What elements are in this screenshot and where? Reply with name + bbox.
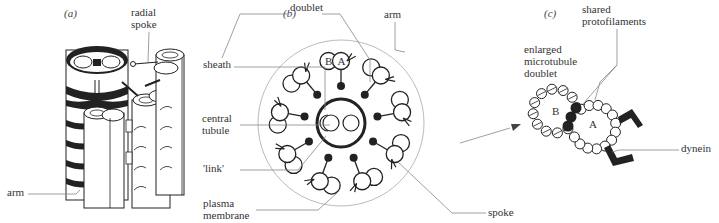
arm-label-b: arm [384, 8, 402, 20]
doublet-a-letter: A [338, 55, 346, 67]
central-tubule-right [343, 115, 359, 131]
spoke-head [305, 138, 313, 146]
panel-b-cross-section: (b) BA doublet arm sheath central tubule… [202, 1, 521, 221]
spoke-head [361, 91, 369, 99]
svg-text:protofilaments: protofilaments [582, 15, 646, 27]
axoneme-diagram: (a) [0, 0, 719, 223]
tubule-a [386, 146, 403, 163]
protofilament-ring [528, 84, 621, 154]
radial-spoke [134, 62, 158, 64]
spoke-head [350, 154, 358, 162]
spoke-head [373, 113, 381, 121]
outer-doublet [373, 91, 411, 126]
sheath-label: sheath [203, 58, 232, 70]
enlarged-doublet-label: enlarged [524, 43, 562, 55]
panel-a-3d-axoneme: (a) [7, 6, 184, 208]
spoke-head [301, 113, 309, 121]
doublet-tube-back [154, 49, 184, 195]
radial-spoke-label: radial [131, 6, 156, 18]
tubule-a [372, 67, 389, 84]
spoke-head [337, 82, 345, 90]
tubule-a-label: A [589, 118, 597, 130]
enlarge-arrow [460, 128, 510, 143]
shared-protofilaments-label: shared [582, 3, 611, 15]
tubule-a [394, 104, 411, 121]
shared-protofilament [563, 121, 574, 132]
svg-text:spoke: spoke [131, 18, 157, 30]
dynein-arm-inner [604, 145, 634, 166]
outer-doublet [283, 62, 321, 98]
doublet-b-letter: B [325, 55, 332, 67]
arm-label-a: arm [7, 186, 25, 198]
doublet-label: doublet [290, 1, 323, 13]
tubule-a [279, 146, 296, 163]
svg-text:tubule: tubule [202, 124, 230, 136]
panel-c-label: (c) [544, 7, 557, 20]
protofilament-a [569, 132, 579, 142]
outer-doublet [275, 138, 313, 174]
outer-doublet [304, 154, 340, 194]
plasma-membrane-label: plasma [203, 197, 234, 209]
tubule-a [311, 173, 328, 190]
panel-c-enlarged-doublet: (c) shared protofilaments enlarged micro… [524, 3, 711, 166]
spoke-head [369, 138, 377, 146]
link-label: 'link' [203, 162, 224, 174]
svg-text:membrane: membrane [203, 209, 250, 221]
svg-text:microtubule: microtubule [524, 55, 577, 67]
spoke-label: spoke [488, 206, 514, 218]
outer-doublet [361, 59, 395, 99]
central-tubule-label: central [202, 112, 232, 124]
svg-text:doublet: doublet [524, 67, 557, 79]
outer-doublet [369, 135, 409, 170]
doublet-tube-front [84, 107, 124, 208]
dynein-arm-outer [618, 109, 643, 128]
outer-doublet [269, 97, 308, 133]
panel-a-label: (a) [64, 7, 77, 20]
tubule-b-label: B [552, 105, 559, 117]
dynein-label: dynein [681, 142, 711, 154]
spoke-head [324, 154, 332, 162]
spoke-head [313, 91, 321, 99]
tubule-a [271, 104, 288, 121]
outer-doublet [350, 154, 383, 192]
outer-doublets: BA [269, 53, 411, 195]
